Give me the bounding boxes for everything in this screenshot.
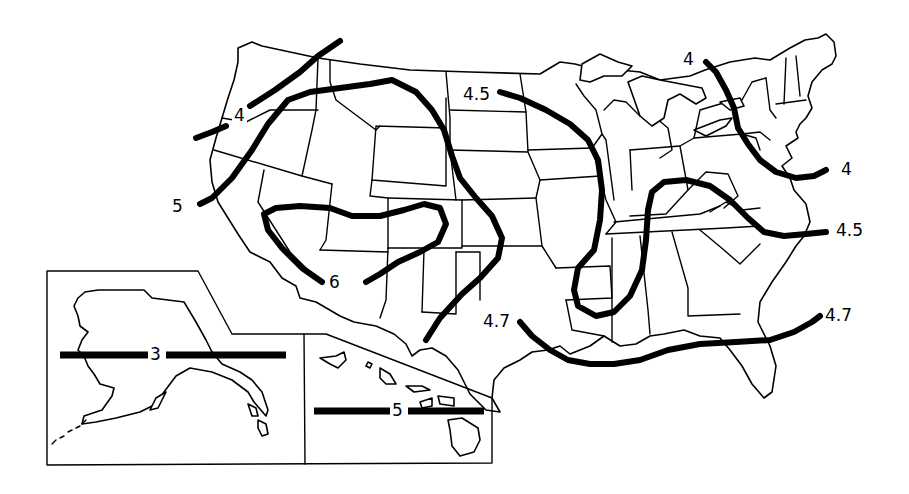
label-northeast-end-4: 4 (841, 161, 852, 178)
label-southwest-6: 6 (329, 274, 340, 291)
alaska-inset (52, 290, 268, 444)
label-west-5: 5 (172, 198, 183, 215)
label-pnw-4: 4 (232, 107, 247, 124)
inset-divider (304, 334, 305, 464)
label-plains-4-5: 4.5 (463, 86, 490, 103)
label-gulf-east-4-7: 4.7 (825, 307, 852, 324)
isoline-map: 4 5 6 4.5 4.7 4.7 4 4 4.5 3 5 (0, 0, 909, 494)
label-hawaii-5: 5 (392, 402, 403, 419)
label-gulf-west-4-7: 4.7 (483, 313, 510, 330)
label-alaska-3: 3 (150, 346, 161, 363)
map-canvas (0, 0, 909, 494)
label-northeast-start-4: 4 (683, 51, 694, 68)
label-east-4-5: 4.5 (836, 222, 863, 239)
